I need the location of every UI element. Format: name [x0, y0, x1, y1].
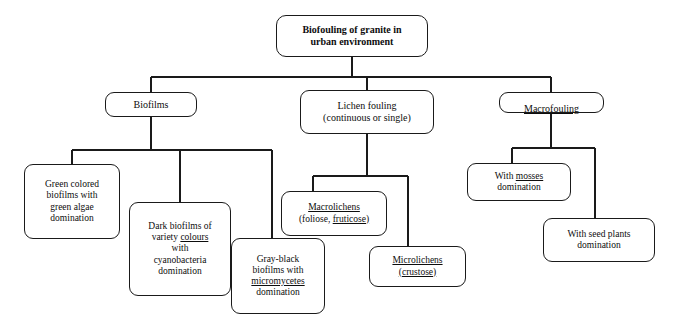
node-macrolichens-label: Macrolichens(foliose, fruticose): [286, 202, 382, 224]
node-macrolichens[interactable]: Macrolichens(foliose, fruticose): [281, 191, 387, 236]
macrofouling-text: Macrofouling: [524, 103, 579, 114]
node-lichen-fouling[interactable]: Lichen fouling (continuous or single): [300, 90, 434, 134]
node-root-label: Biofouling of granite in urban environme…: [281, 24, 423, 48]
diagram-canvas: Biofouling of granite in urban environme…: [0, 0, 673, 322]
node-mosses-label: With mossesdomination: [472, 171, 566, 193]
node-seed-plants-label: With seed plantsdomination: [548, 229, 650, 251]
node-biofilms[interactable]: Biofilms: [105, 92, 197, 117]
node-dark-biofilms-label: Dark biofilms ofvariety colourswithcyano…: [134, 221, 226, 277]
node-mosses[interactable]: With mossesdomination: [467, 163, 571, 201]
node-macrofouling[interactable]: Macrofouling: [499, 92, 604, 113]
node-microlichens[interactable]: Microlichens(crustose): [369, 246, 466, 287]
node-green-biofilms[interactable]: Green coloredbiofilms withgreen algaedom…: [24, 164, 120, 239]
node-root[interactable]: Biofouling of granite in urban environme…: [276, 15, 428, 57]
node-seed-plants[interactable]: With seed plantsdomination: [543, 218, 655, 262]
node-dark-biofilms[interactable]: Dark biofilms ofvariety colourswithcyano…: [129, 202, 231, 296]
node-macrofouling-label: Macrofouling: [504, 91, 599, 115]
node-biofilms-label: Biofilms: [110, 99, 192, 111]
node-microlichens-label: Microlichens(crustose): [374, 255, 461, 277]
node-gray-black-biofilms[interactable]: Gray-blackbiofilms withmicromycetesdomin…: [231, 238, 325, 314]
node-gray-black-biofilms-label: Gray-blackbiofilms withmicromycetesdomin…: [236, 254, 320, 299]
node-lichen-fouling-label: Lichen fouling (continuous or single): [305, 100, 429, 124]
node-green-biofilms-label: Green coloredbiofilms withgreen algaedom…: [29, 179, 115, 224]
